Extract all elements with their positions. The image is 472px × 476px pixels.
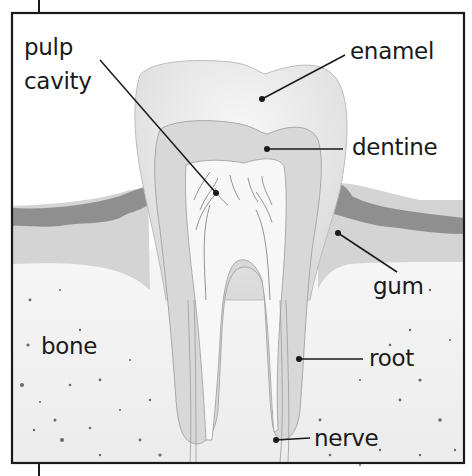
- diagram-panel: [12, 61, 464, 466]
- label-bone: bone: [41, 333, 97, 359]
- label-dentine: dentine: [352, 134, 437, 160]
- label-gum: gum: [373, 273, 424, 299]
- label-enamel: enamel: [350, 38, 434, 64]
- label-root: root: [369, 345, 414, 371]
- label-cavity: cavity: [24, 68, 92, 94]
- label-nerve: nerve: [314, 425, 378, 451]
- tooth-diagram: pulp cavity enamel dentine gum bone root…: [0, 0, 472, 476]
- label-pulp: pulp: [24, 34, 73, 60]
